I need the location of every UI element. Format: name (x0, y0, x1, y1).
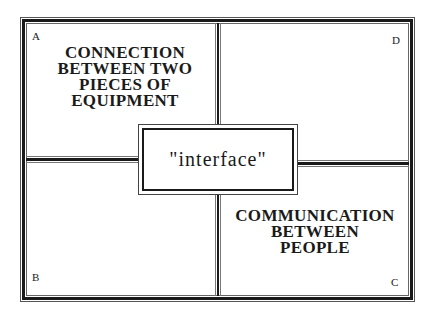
divider-right-bottom-line (298, 166, 409, 167)
quadrant-a-text: CONNECTION BETWEEN TWO PIECES OF EQUIPME… (40, 45, 210, 109)
quadrant-c-label: C (391, 276, 398, 288)
divider-left (26, 158, 138, 161)
quadrant-b-label: B (32, 271, 39, 283)
quadrant-c-line: PEOPLE (222, 240, 408, 256)
divider-bottom (217, 195, 219, 296)
divider-top-left-line (215, 23, 216, 124)
divider-bottom-right-line (220, 195, 221, 296)
divider-left-bottom-line (26, 162, 138, 163)
quadrant-c-text: COMMUNICATION BETWEEN PEOPLE (222, 208, 408, 256)
quadrant-d-label: D (392, 34, 400, 46)
divider-right-top-line (298, 160, 409, 161)
center-box: "interface" (138, 124, 298, 195)
divider-top (217, 23, 219, 124)
center-box-inner: "interface" (142, 128, 294, 191)
divider-top-right-line (220, 23, 221, 124)
center-label: "interface" (169, 148, 266, 171)
quadrant-a-line: EQUIPMENT (40, 93, 210, 109)
divider-right (298, 162, 409, 165)
divider-left-top-line (26, 156, 138, 157)
divider-bottom-left-line (215, 195, 216, 296)
quadrant-a-label: A (32, 30, 40, 42)
